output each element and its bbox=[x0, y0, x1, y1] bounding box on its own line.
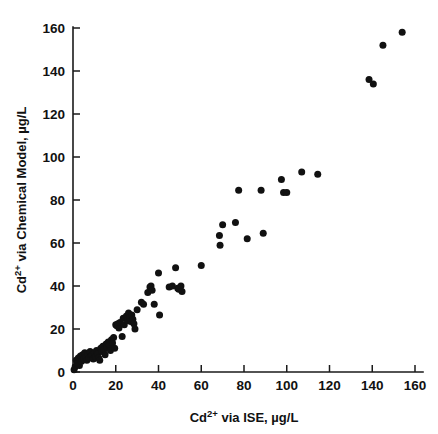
data-point bbox=[219, 221, 226, 228]
y-tick-label-40: 40 bbox=[50, 279, 65, 294]
data-point bbox=[232, 219, 239, 226]
x-tick-label-60: 60 bbox=[194, 378, 209, 393]
data-point bbox=[244, 235, 251, 242]
y-tick-label-0: 0 bbox=[57, 365, 65, 380]
y-tick-label-120: 120 bbox=[42, 107, 65, 122]
y-tick-label-140: 140 bbox=[42, 64, 65, 79]
data-point bbox=[96, 357, 103, 364]
data-point bbox=[151, 301, 158, 308]
data-point bbox=[314, 171, 321, 178]
x-tick-label-40: 40 bbox=[151, 378, 166, 393]
x-axis-title: Cd2+ via ISE, µg/L bbox=[190, 408, 299, 425]
data-point bbox=[379, 42, 386, 49]
data-point bbox=[155, 270, 162, 277]
plot-canvas: 0204060801001201401600204060801001201401… bbox=[0, 0, 438, 434]
data-point bbox=[140, 301, 147, 308]
x-tick-label-120: 120 bbox=[318, 378, 341, 393]
x-tick-label-80: 80 bbox=[236, 378, 251, 393]
x-tick-label-140: 140 bbox=[361, 378, 384, 393]
x-tick-label-160: 160 bbox=[404, 378, 427, 393]
data-points-group bbox=[71, 29, 406, 374]
y-tick-label-100: 100 bbox=[42, 150, 65, 165]
x-tick-label-20: 20 bbox=[108, 378, 123, 393]
data-point bbox=[149, 287, 156, 294]
data-point bbox=[399, 29, 406, 36]
data-point bbox=[260, 230, 267, 237]
data-point bbox=[131, 326, 138, 333]
scatter-plot-figure: 0204060801001201401600204060801001201401… bbox=[0, 0, 438, 434]
data-point bbox=[298, 169, 305, 176]
data-point bbox=[258, 187, 265, 194]
y-axis-title: Cd2+ via Chemical Model, µg/L bbox=[12, 107, 29, 294]
y-tick-label-20: 20 bbox=[50, 322, 65, 337]
y-tick-label-160: 160 bbox=[42, 21, 65, 36]
x-tick-label-100: 100 bbox=[275, 378, 298, 393]
data-point bbox=[179, 288, 186, 295]
data-point bbox=[156, 312, 163, 319]
data-point bbox=[172, 264, 179, 271]
data-point bbox=[235, 187, 242, 194]
data-point bbox=[278, 176, 285, 183]
data-point bbox=[110, 334, 117, 341]
data-point bbox=[198, 262, 205, 269]
data-point bbox=[119, 333, 126, 340]
data-point bbox=[283, 189, 290, 196]
data-point bbox=[111, 345, 118, 352]
data-point bbox=[216, 232, 223, 239]
data-point bbox=[370, 80, 377, 87]
data-point bbox=[217, 242, 224, 249]
y-tick-label-60: 60 bbox=[50, 236, 65, 251]
data-point bbox=[134, 306, 141, 313]
x-tick-label-0: 0 bbox=[69, 378, 77, 393]
y-tick-label-80: 80 bbox=[50, 193, 65, 208]
